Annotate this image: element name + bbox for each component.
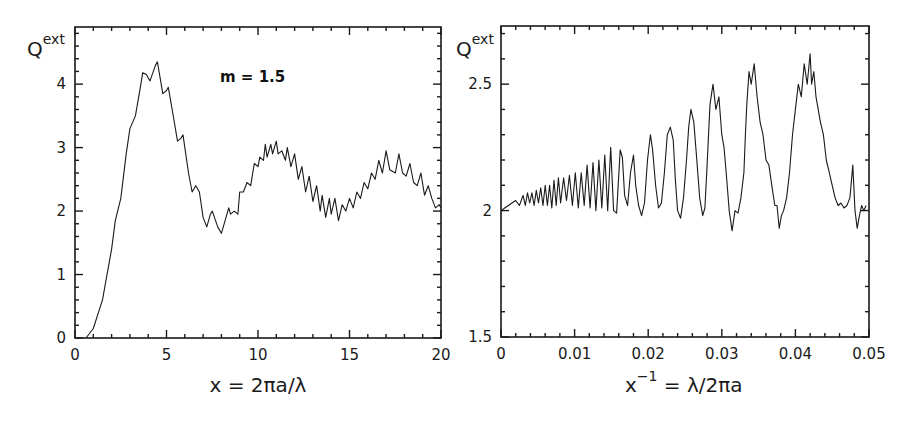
x-tick-label: 15 [340, 346, 359, 364]
x-tick-label: 0 [496, 345, 506, 363]
right-xlabel-rest: = λ/2πa [657, 373, 742, 397]
y-tick-label: 2 [482, 202, 492, 220]
x-tick-label: 0 [70, 346, 80, 364]
right-plot: 00.010.020.030.040.051.522.5 Qext x−1 = … [456, 26, 886, 397]
x-tick-label: 5 [162, 346, 172, 364]
y-tick-label: 2.5 [468, 75, 492, 93]
left-data-curve [86, 62, 441, 338]
x-tick-label: 0.01 [558, 345, 591, 363]
right-ylabel-sup: ext [472, 31, 495, 47]
x-tick-label: 20 [431, 346, 450, 364]
x-tick-label: 10 [248, 346, 267, 364]
x-tick-label: 0.02 [631, 345, 664, 363]
left-x-axis-label: x = 2πa/λ [210, 373, 307, 397]
y-tick-label: 1.5 [468, 328, 492, 346]
left-annotation: m = 1.5 [220, 68, 285, 86]
right-ylabel-main: Q [456, 37, 472, 61]
y-tick-label: 0 [56, 329, 66, 347]
x-tick-label: 0.04 [779, 345, 812, 363]
right-xlabel-sup: −1 [637, 368, 658, 384]
y-tick-label: 2 [56, 202, 66, 220]
right-data-curve [501, 54, 866, 231]
right-x-axis-label: x−1 = λ/2πa [625, 368, 743, 397]
right-y-axis-label: Qext [456, 31, 494, 61]
x-tick-label: 0.05 [852, 345, 885, 363]
right-tick-labels: 00.010.020.030.040.051.522.5 [468, 75, 886, 363]
figure: 0510152001234 m = 1.5 Qext x = 2πa/λ 00.… [0, 0, 904, 423]
x-tick-label: 0.03 [705, 345, 738, 363]
y-tick-label: 4 [56, 75, 66, 93]
left-plot: 0510152001234 m = 1.5 Qext x = 2πa/λ [27, 27, 451, 397]
left-ylabel-main: Q [27, 37, 43, 61]
y-tick-label: 1 [56, 266, 66, 284]
right-xlabel-main: x [625, 373, 637, 397]
y-tick-label: 3 [56, 139, 66, 157]
left-y-axis-label: Qext [27, 31, 65, 61]
left-ylabel-sup: ext [43, 31, 66, 47]
